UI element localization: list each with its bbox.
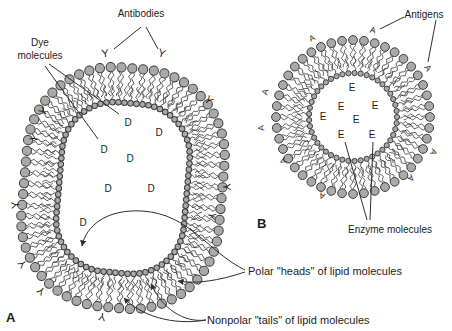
lipid-head-inner bbox=[142, 269, 148, 275]
lipid-head-inner bbox=[182, 215, 188, 221]
lipid-head-outer bbox=[218, 172, 228, 182]
lipid-tail bbox=[299, 137, 312, 145]
lipid-head-inner bbox=[56, 233, 62, 239]
lipid-tail bbox=[322, 50, 332, 71]
lipid-head-outer bbox=[169, 72, 179, 82]
lipid-head-inner bbox=[375, 78, 380, 83]
lipid-head-inner bbox=[183, 197, 189, 203]
lipid-head-inner bbox=[58, 161, 64, 167]
enzyme-molecule-letter: E bbox=[338, 129, 345, 140]
lipid-head-inner bbox=[394, 114, 399, 119]
lipid-head-outer bbox=[159, 68, 169, 78]
lipid-tail bbox=[116, 71, 121, 96]
antigen-glyph: A bbox=[422, 63, 434, 73]
lipid-head-inner bbox=[63, 132, 69, 138]
lipid-head-outer bbox=[74, 69, 84, 79]
antibody-glyph: Y bbox=[8, 200, 21, 210]
lipid-head-inner bbox=[323, 149, 328, 154]
lipid-head-outer bbox=[40, 96, 50, 106]
lipid-head-outer bbox=[279, 145, 288, 154]
lipid-head-outer bbox=[179, 77, 189, 87]
antigens-pointer-right bbox=[428, 20, 436, 62]
lipid-head-inner bbox=[393, 127, 398, 132]
lipid-head-inner bbox=[309, 129, 314, 134]
enzyme-molecule-letter: E bbox=[353, 114, 360, 125]
lipid-head-outer bbox=[199, 266, 209, 276]
lipid-tail bbox=[188, 199, 203, 203]
lipid-head-outer bbox=[422, 91, 431, 100]
lipid-head-inner bbox=[187, 155, 193, 161]
lipid-head-outer bbox=[214, 226, 224, 236]
lipid-head-inner bbox=[394, 108, 399, 113]
lipid-head-outer bbox=[217, 193, 227, 203]
lipid-head-inner bbox=[53, 215, 59, 221]
lipid-tail bbox=[189, 232, 214, 240]
lipid-head-inner bbox=[115, 99, 121, 105]
lipid-tail bbox=[346, 163, 349, 178]
lipid-head-inner bbox=[54, 227, 60, 233]
dye-molecule-letter: D bbox=[126, 153, 133, 164]
dye-molecule-letter: D bbox=[147, 183, 154, 194]
lipid-head-inner bbox=[358, 158, 363, 163]
lipid-head-inner bbox=[388, 91, 393, 96]
lipid-head-outer bbox=[149, 66, 159, 76]
diagram-canvas: DDDDDDD EEEEEEE YYYYYYYYYYY AAAAAAAAA An… bbox=[0, 0, 452, 331]
lipid-head-inner bbox=[179, 233, 185, 239]
lipid-tail bbox=[297, 151, 315, 166]
lipid-tail bbox=[189, 193, 204, 197]
lipid-head-outer bbox=[338, 36, 347, 45]
lipid-head-inner bbox=[319, 84, 324, 89]
lipid-head-inner bbox=[184, 185, 190, 191]
lipid-head-inner bbox=[182, 209, 188, 215]
lipid-tail bbox=[109, 279, 114, 304]
lipid-head-outer bbox=[185, 282, 195, 292]
lipid-head-inner bbox=[184, 191, 190, 197]
lipid-head-inner bbox=[154, 265, 160, 271]
lipid-head-inner bbox=[95, 268, 101, 274]
lipid-head-outer bbox=[349, 190, 358, 199]
lipid-head-outer bbox=[413, 154, 422, 163]
lipid-tail bbox=[403, 107, 426, 112]
lipid-head-inner bbox=[145, 102, 151, 108]
lipid-tail bbox=[45, 150, 60, 154]
lipid-head-inner bbox=[186, 161, 192, 167]
lipid-head-outer bbox=[146, 302, 156, 312]
lipid-tail bbox=[178, 248, 192, 255]
lipid-head-inner bbox=[54, 209, 60, 215]
nonpolar-tails-label: Nonpolar "tails" of lipid molecules bbox=[207, 314, 370, 326]
dye-molecule-letter: D bbox=[104, 183, 111, 194]
lipid-head-outer bbox=[399, 54, 408, 63]
dye-label-line1: Dye bbox=[31, 37, 49, 48]
lipid-head-outer bbox=[212, 236, 222, 246]
lipid-head-outer bbox=[381, 43, 390, 52]
lipid-head-inner bbox=[55, 197, 61, 203]
dye-molecule-letter: D bbox=[155, 127, 162, 138]
lipid-head-outer bbox=[425, 124, 434, 133]
lipid-head-inner bbox=[109, 99, 115, 105]
enzyme-molecule-letter: E bbox=[372, 100, 379, 111]
lipid-head-inner bbox=[340, 157, 345, 162]
lipid-head-outer bbox=[290, 163, 299, 172]
lipid-head-inner bbox=[55, 191, 61, 197]
lipid-head-outer bbox=[82, 299, 92, 309]
lipid-tail bbox=[85, 270, 91, 285]
lipid-head-inner bbox=[86, 105, 92, 111]
lipid-head-outer bbox=[284, 71, 293, 80]
lipid-head-inner bbox=[328, 76, 333, 81]
lipid-tail bbox=[403, 104, 426, 109]
lipid-tail bbox=[127, 72, 132, 97]
enzyme-molecule-letters: EEEEEEE bbox=[320, 82, 379, 140]
dye-molecule-letter: D bbox=[124, 117, 131, 128]
antibodies-label: Antibodies bbox=[118, 8, 165, 19]
lipid-head-outer bbox=[95, 63, 105, 73]
lipid-tail bbox=[156, 270, 166, 283]
lipid-head-outer bbox=[29, 114, 39, 124]
lipid-head-inner bbox=[59, 149, 65, 155]
antigens-label: Antigens bbox=[405, 9, 444, 20]
lipid-head-inner bbox=[334, 155, 339, 160]
lipid-head-inner bbox=[56, 179, 62, 185]
lipid-head-inner bbox=[340, 72, 345, 77]
lipid-head-outer bbox=[72, 296, 82, 306]
lipid-head-outer bbox=[425, 102, 434, 111]
lipid-head-outer bbox=[62, 291, 72, 301]
